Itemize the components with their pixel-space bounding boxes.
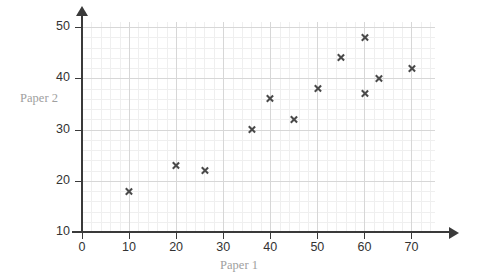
- x-axis-tick: [364, 233, 365, 239]
- gridline-major-vertical: [270, 22, 271, 232]
- gridline-minor-horizontal: [82, 160, 435, 161]
- gridline-major-vertical: [176, 22, 177, 232]
- x-axis-tick: [82, 233, 83, 239]
- gridline-minor-horizontal: [82, 191, 435, 192]
- scatter-plot-figure: 010203040506070 1020304050 Paper 1 Paper…: [0, 0, 478, 277]
- gridline-major-vertical: [129, 22, 130, 232]
- x-axis-tick: [270, 233, 271, 239]
- gridline-major-vertical: [223, 22, 224, 232]
- data-point-marker: [360, 89, 369, 98]
- gridline-minor-horizontal: [82, 37, 435, 38]
- y-axis-tick-label: 40: [30, 70, 70, 84]
- data-point-marker: [407, 64, 416, 73]
- data-point-marker: [374, 74, 383, 83]
- data-point-marker: [336, 53, 345, 62]
- gridline-major-vertical: [364, 22, 365, 232]
- plot-area: [82, 22, 435, 232]
- y-axis-tick-label: 50: [30, 19, 70, 33]
- y-axis-tick: [75, 181, 81, 182]
- x-axis-arrowhead-icon: [449, 227, 459, 239]
- x-axis-tick: [129, 233, 130, 239]
- gridline-major-vertical: [317, 22, 318, 232]
- y-axis-title: Paper 2: [4, 91, 74, 106]
- data-point-marker: [313, 84, 322, 93]
- gridline-minor-horizontal: [82, 109, 435, 110]
- x-axis-tick-label: 50: [297, 240, 337, 254]
- y-axis-line: [81, 14, 83, 233]
- gridline-minor-horizontal: [82, 212, 435, 213]
- data-point-marker: [125, 187, 134, 196]
- data-point-marker: [172, 161, 181, 170]
- gridline-major-horizontal: [82, 27, 435, 28]
- gridline-major-horizontal: [82, 130, 435, 131]
- gridline-minor-horizontal: [82, 171, 435, 172]
- x-axis-title: Paper 1: [0, 258, 478, 273]
- gridline-minor-horizontal: [82, 150, 435, 151]
- y-axis-tick-label: 20: [30, 173, 70, 187]
- x-axis-tick-label: 0: [62, 240, 102, 254]
- x-axis-tick-label: 30: [203, 240, 243, 254]
- data-point-marker: [200, 166, 209, 175]
- x-axis-tick-label: 10: [109, 240, 149, 254]
- y-axis-tick: [75, 130, 81, 131]
- gridline-minor-horizontal: [82, 48, 435, 49]
- x-axis-tick: [317, 233, 318, 239]
- x-axis-tick: [223, 233, 224, 239]
- y-axis-tick: [75, 78, 81, 79]
- x-axis-tick: [411, 233, 412, 239]
- gridline-minor-horizontal: [82, 99, 435, 100]
- x-axis-tick-label: 20: [156, 240, 196, 254]
- x-axis-tick: [176, 233, 177, 239]
- data-point-marker: [266, 94, 275, 103]
- gridline-minor-horizontal: [82, 140, 435, 141]
- x-axis-tick-label: 40: [250, 240, 290, 254]
- gridline-minor-horizontal: [82, 58, 435, 59]
- gridline-minor-horizontal: [82, 201, 435, 202]
- y-axis-tick-label: 30: [30, 122, 70, 136]
- data-point-marker: [360, 33, 369, 42]
- gridline-major-vertical: [411, 22, 412, 232]
- data-point-marker: [247, 125, 256, 134]
- gridline-minor-horizontal: [82, 68, 435, 69]
- gridline-minor-horizontal: [82, 119, 435, 120]
- gridline-minor-horizontal: [82, 222, 435, 223]
- gridline-minor-horizontal: [82, 89, 435, 90]
- gridline-major-horizontal: [82, 181, 435, 182]
- y-axis-tick: [75, 232, 81, 233]
- y-axis-arrowhead-icon: [76, 6, 88, 16]
- y-axis-tick: [75, 27, 81, 28]
- x-axis-tick-label: 60: [344, 240, 384, 254]
- x-axis-tick-label: 70: [391, 240, 431, 254]
- data-point-marker: [289, 115, 298, 124]
- y-axis-tick-label: 10: [30, 224, 70, 238]
